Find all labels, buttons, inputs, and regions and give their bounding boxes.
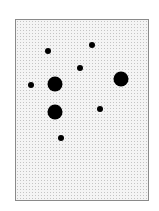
small-dot bbox=[89, 42, 95, 48]
small-dot bbox=[45, 48, 51, 54]
small-dot bbox=[28, 82, 34, 88]
small-dot bbox=[77, 65, 83, 71]
large-dot bbox=[48, 105, 63, 120]
large-dot bbox=[48, 77, 63, 92]
dotted-panel bbox=[15, 19, 149, 201]
small-dot bbox=[58, 135, 64, 141]
small-dot bbox=[97, 106, 103, 112]
large-dot bbox=[114, 72, 129, 87]
